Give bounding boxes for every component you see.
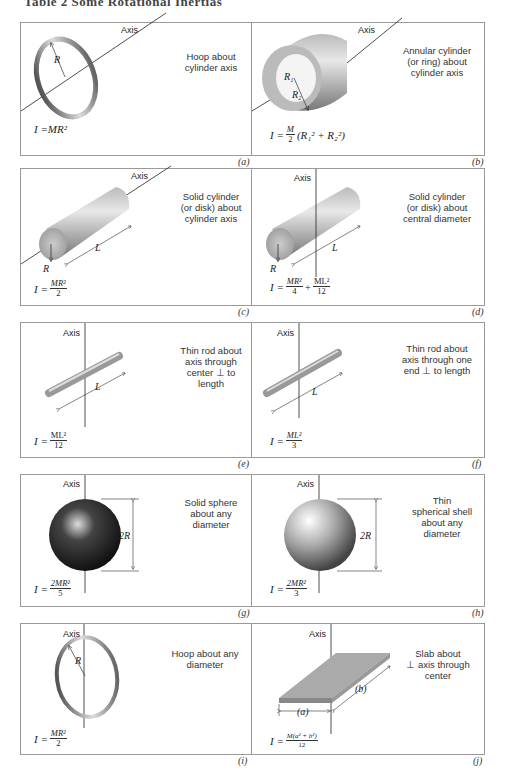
- panel-a-hoop-cylinder-axis: R Axis Hoop about cylinder axis I = MR²: [20, 22, 252, 156]
- axis-label: Axis: [63, 328, 80, 338]
- formula-lhs: I =: [34, 733, 48, 745]
- formula: I = 2MR²5: [34, 579, 73, 598]
- panel-tag: (a): [238, 156, 250, 167]
- panel-g-solid-sphere: 2R Axis Solid sphere about any diameter …: [20, 474, 252, 607]
- formula-lhs: I =: [270, 129, 284, 141]
- formula-lhs: I =: [270, 435, 284, 447]
- panel-tag: (i): [238, 755, 247, 766]
- panel-description: Thin spherical shell about any diameter: [402, 495, 482, 539]
- axis-label: Axis: [309, 629, 326, 639]
- panel-f-thin-rod-end: L Axis Thin rod about axis through one e…: [251, 322, 485, 458]
- panel-tag: (h): [472, 607, 484, 618]
- denominator: 4: [292, 287, 296, 296]
- formula: I = MR²: [34, 123, 67, 135]
- axis-label: Axis: [63, 629, 80, 639]
- formula-rest: (R₁² + R₂²): [297, 129, 345, 141]
- panel-e-thin-rod-center: L Axis Thin rod about axis through cente…: [20, 322, 252, 458]
- panel-j-slab: (a) (b) Axis Slab about ⊥ axis through c…: [251, 623, 485, 755]
- formula: I = M(a² + b²)12: [270, 732, 320, 749]
- panel-description: Thin rod about axis through center ⊥ to …: [171, 345, 251, 389]
- b-symbol: (b): [355, 683, 367, 695]
- formula-lhs: I =: [34, 283, 48, 295]
- formula-lhs: I =: [34, 123, 48, 135]
- fraction-2: ML²12: [313, 277, 330, 296]
- panel-tag: (f): [472, 458, 481, 469]
- panel-tag: (j): [473, 755, 482, 766]
- fraction: 2MR²3: [286, 579, 307, 598]
- panel-tag: (g): [238, 607, 250, 618]
- denominator: 3: [292, 441, 296, 450]
- fraction: MR²2: [50, 279, 67, 298]
- denominator: 3: [294, 589, 298, 598]
- panel-tag: (e): [238, 458, 249, 469]
- panel-description: Solid cylinder (or disk) about central d…: [392, 191, 482, 224]
- formula: I = ML²3: [270, 431, 304, 450]
- radius-symbol: R: [42, 263, 49, 274]
- formula: I = MR²4 + ML²12: [270, 277, 332, 296]
- panel-tag: (d): [472, 306, 484, 317]
- diameter-symbol: 2R: [119, 530, 130, 541]
- formula: I = 2MR²3: [270, 579, 309, 598]
- fraction: M2: [286, 125, 295, 144]
- axis-label: Axis: [297, 479, 314, 489]
- a-symbol: (a): [297, 706, 309, 718]
- r1-symbol: R₁: [283, 71, 294, 82]
- length-symbol: L: [331, 242, 338, 253]
- denominator: 12: [54, 441, 63, 450]
- panel-description: Thin rod about axis through one end ⊥ to…: [392, 343, 482, 376]
- formula: I = MR²2: [34, 729, 69, 748]
- fraction: MR²4: [286, 277, 303, 296]
- panel-description: Solid cylinder (or disk) about cylinder …: [171, 191, 251, 224]
- panel-description: Solid sphere about any diameter: [171, 497, 251, 530]
- axis-label: Axis: [63, 479, 80, 489]
- axis-label: Axis: [277, 328, 294, 338]
- panel-tag: (b): [472, 156, 484, 167]
- fraction: 2MR²5: [50, 579, 71, 598]
- formula-lhs: I =: [270, 281, 284, 293]
- panel-description: Hoop about cylinder axis: [171, 51, 251, 73]
- axis-label: Axis: [358, 25, 375, 35]
- denominator: 2: [56, 289, 60, 298]
- panel-description: Slab about ⊥ axis through center: [395, 648, 481, 681]
- table-title: Table 2 Some Rotational Inertias: [24, 0, 222, 10]
- plus-sign: +: [305, 281, 311, 293]
- fraction: ML²3: [286, 431, 302, 450]
- formula-rhs: MR²: [48, 123, 67, 135]
- denominator: 12: [298, 741, 305, 749]
- panel-b-annular-cylinder: R₁ R₂ Axis Annular cylinder (or ring) ab…: [251, 22, 485, 156]
- panel-description: Hoop about any diameter: [159, 648, 251, 670]
- formula-lhs: I =: [34, 435, 48, 447]
- denominator: 2: [56, 739, 60, 748]
- radius-symbol: R: [53, 54, 60, 65]
- length-symbol: L: [94, 242, 101, 253]
- panel-tag: (c): [238, 306, 249, 317]
- denominator: 2: [288, 135, 292, 144]
- denominator-2: 12: [317, 287, 326, 296]
- formula: I = ML²12: [34, 431, 69, 450]
- hoop-figure: R: [21, 23, 253, 157]
- fraction: M(a² + b²)12: [286, 732, 318, 749]
- diameter-symbol: 2R: [360, 530, 371, 541]
- axis-label: Axis: [131, 171, 148, 181]
- formula: I = M2 (R₁² + R₂²): [270, 125, 345, 144]
- axis-label: Axis: [121, 25, 138, 35]
- axis-label: Axis: [294, 173, 311, 183]
- length-symbol: L: [94, 381, 101, 392]
- radius-symbol: R: [74, 655, 81, 666]
- panel-h-spherical-shell: 2R Axis Thin spherical shell about any d…: [251, 474, 485, 607]
- panel-d-solid-cylinder-diameter: R L Axis Solid cylinder (or disk) about …: [251, 168, 485, 306]
- panel-i-hoop-diameter: R Axis Hoop about any diameter I = MR²2: [20, 623, 252, 755]
- fraction: ML²12: [50, 431, 67, 450]
- formula-lhs: I =: [270, 735, 284, 747]
- fraction: MR²2: [50, 729, 67, 748]
- length-symbol: L: [311, 386, 318, 397]
- formula-lhs: I =: [270, 583, 284, 595]
- denominator: 5: [58, 589, 62, 598]
- radius-symbol: R: [269, 263, 276, 274]
- r2-symbol: R₂: [291, 89, 302, 100]
- panel-description: Annular cylinder (or ring) about cylinde…: [392, 45, 482, 78]
- formula-lhs: I =: [34, 583, 48, 595]
- panel-c-solid-cylinder-axis: R L Axis Solid cylinder (or disk) about …: [20, 168, 252, 306]
- formula: I = MR²2: [34, 279, 69, 298]
- numerator: M(a² + b²): [286, 732, 318, 741]
